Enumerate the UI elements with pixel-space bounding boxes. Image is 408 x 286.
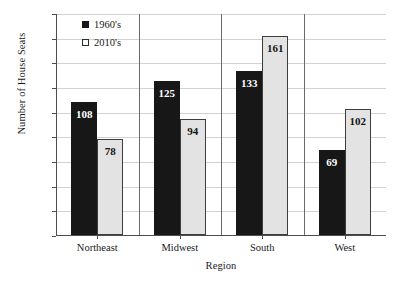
category-divider (304, 14, 305, 235)
x-axis-tick (97, 235, 98, 239)
category-divider (139, 14, 140, 235)
bar-chart: Number of House Seats Region 18016014012… (0, 0, 408, 286)
bar-west-1960s: 69 (319, 150, 345, 235)
bar-value-label: 108 (72, 108, 96, 120)
bar-value-label: 69 (320, 156, 344, 168)
bar-value-label: 161 (263, 42, 287, 54)
bar-west-2010s: 102 (345, 109, 371, 235)
legend-item-2010s: 2010's (82, 34, 121, 50)
y-axis-title: Number of House Seats (16, 19, 27, 149)
x-axis-tick (345, 235, 346, 239)
bar-value-label: 125 (155, 87, 179, 99)
x-axis-line (56, 235, 386, 236)
bar-value-label: 78 (98, 145, 122, 157)
bar-value-label: 102 (346, 115, 370, 127)
legend-label: 2010's (94, 37, 121, 48)
x-axis-label-midwest: Midwest (139, 242, 222, 254)
filled-square-icon (82, 21, 89, 28)
category-divider (221, 14, 222, 235)
x-axis-label-west: West (304, 242, 387, 254)
bar-northeast-1960s: 108 (71, 102, 97, 235)
bar-value-label: 133 (237, 77, 261, 89)
bar-south-1960s: 133 (236, 71, 262, 235)
open-square-icon (82, 39, 89, 46)
legend: 1960's2010's (82, 16, 121, 52)
bar-northeast-2010s: 78 (97, 139, 123, 235)
bar-midwest-1960s: 125 (154, 81, 180, 235)
x-axis-label-south: South (221, 242, 304, 254)
bar-value-label: 94 (181, 125, 205, 137)
legend-label: 1960's (94, 19, 121, 30)
legend-item-1960s: 1960's (82, 16, 121, 32)
x-axis-title: Region (56, 260, 386, 271)
x-axis-label-northeast: Northeast (56, 242, 139, 254)
y-axis-tick (52, 236, 56, 237)
bar-south-2010s: 161 (262, 36, 288, 235)
x-axis-tick (262, 235, 263, 239)
y-axis-line (56, 14, 57, 236)
x-axis-tick (180, 235, 181, 239)
bar-midwest-2010s: 94 (180, 119, 206, 235)
